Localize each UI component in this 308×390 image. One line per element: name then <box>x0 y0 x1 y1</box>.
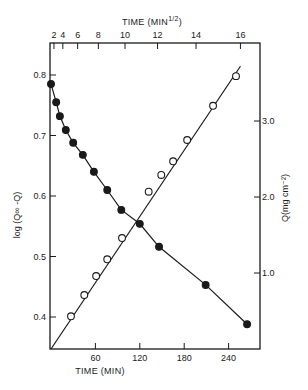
open-data-point <box>158 172 165 179</box>
top-tick-label: 8 <box>96 30 101 40</box>
y-left-tick-label: 0.8 <box>33 70 46 80</box>
top-tick-label: 4 <box>60 30 65 40</box>
decay-curve <box>51 84 247 324</box>
fit-curves <box>51 66 247 349</box>
top-tick-label: 6 <box>75 30 80 40</box>
filled-data-point <box>48 81 55 88</box>
filled-data-point <box>53 99 60 106</box>
chart: 246810121416601201802400.40.50.60.70.81.… <box>0 0 308 390</box>
top-tick-label: 12 <box>153 30 163 40</box>
open-data-point <box>170 158 177 165</box>
left-axis-title: log (Q∞ -Q) <box>12 192 22 238</box>
x-tick-label: 60 <box>90 353 100 363</box>
filled-data-point <box>79 151 86 158</box>
top-tick-label: 14 <box>191 30 201 40</box>
y-left-tick-label: 0.5 <box>33 252 46 262</box>
filled-data-point <box>118 207 125 214</box>
top-axis-title: TIME (MIN1/2) <box>122 15 182 27</box>
filled-data-point <box>202 282 209 289</box>
open-data-point <box>210 102 217 109</box>
open-data-point <box>145 188 152 195</box>
filled-data-point <box>56 113 63 120</box>
y-right-tick-label: 3.0 <box>262 116 275 126</box>
x-tick-label: 240 <box>221 353 236 363</box>
open-data-point <box>119 235 126 242</box>
filled-data-point <box>136 220 143 227</box>
top-tick-label: 16 <box>235 30 245 40</box>
filled-data-point <box>104 187 111 194</box>
y-left-tick-label: 0.6 <box>33 191 46 201</box>
x-axis-title: TIME (MIN) <box>75 366 125 376</box>
y-left-tick-label: 0.4 <box>33 312 46 322</box>
y-right-tick-label: 1.0 <box>262 268 275 278</box>
top-tick-label: 2 <box>51 30 56 40</box>
top-tick-label: 10 <box>120 30 130 40</box>
filled-data-point <box>244 321 251 328</box>
open-data-point <box>93 273 100 280</box>
open-data-point <box>233 73 240 80</box>
x-tick-label: 180 <box>177 353 192 363</box>
right-axis-title: Q(mg cm⁻²) <box>280 174 290 222</box>
x-tick-label: 120 <box>132 353 147 363</box>
y-left-tick-label: 0.7 <box>33 131 46 141</box>
filled-data-point <box>156 243 163 250</box>
data-points <box>48 73 251 328</box>
y-right-tick-label: 2.0 <box>262 192 275 202</box>
filled-data-point <box>91 168 98 175</box>
filled-data-point <box>70 139 77 146</box>
open-data-point <box>81 292 88 299</box>
filled-data-point <box>62 127 69 134</box>
open-data-point <box>104 256 111 263</box>
open-data-point <box>68 313 75 320</box>
open-data-point <box>184 137 191 144</box>
